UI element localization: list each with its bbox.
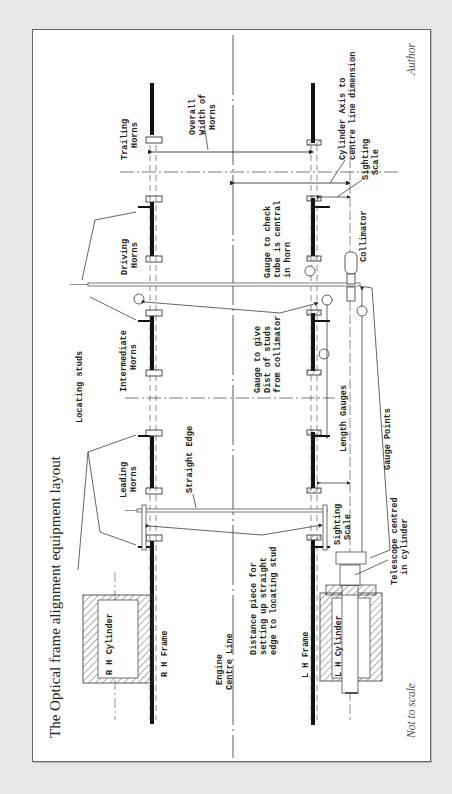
dial-gauges — [134, 266, 367, 359]
straight-edge — [137, 509, 327, 512]
collimator-beam — [88, 283, 360, 286]
label-leading-horns: LeadingHorns — [119, 462, 139, 498]
alignment-diagram: The Optical frame alignment equipment la… — [0, 0, 452, 794]
label-gauge-points: Gauge Points — [383, 408, 393, 470]
figure-title: The Optical frame alignment equipment la… — [47, 455, 63, 738]
label-engine-centre: EngineCentre Line — [215, 633, 235, 690]
label-rh-cylinder: R H Cylinder — [105, 613, 115, 675]
label-distance-piece: Distance piece forsetting up straightedg… — [249, 547, 279, 655]
label-trailing-horns: TrailingHorns — [120, 119, 140, 160]
label-intermediate-horns: IntermediateHorns — [119, 330, 139, 392]
label-collimator: Collimator — [359, 210, 369, 262]
label-gauge-check: Gauge to checktube is centralin horn — [263, 201, 293, 278]
rh-cylinder — [83, 595, 153, 683]
label-gauge-dist: Gauge to giveDist of studsfrom collimato… — [253, 316, 283, 393]
label-lh-cylinder: L H Cylinder — [334, 615, 344, 677]
collimator — [345, 252, 357, 301]
label-overall-width: OverallWidth ofHorns — [188, 94, 218, 135]
figure-credit: Author — [405, 43, 417, 76]
label-locating-studs: Locating studs — [75, 351, 85, 423]
scale-note: Not to scale — [405, 683, 417, 739]
label-length-gauges: Length Gauges — [339, 385, 349, 452]
lh-cylinder — [320, 552, 388, 693]
label-telescope: Telescope centredin cylinder — [390, 497, 410, 585]
label-cylinder-axis: Cylinder Axis tocentre line dimension — [338, 52, 358, 160]
label-rh-frame: R H Frame — [160, 631, 170, 677]
label-straight-edge: Straight Edge — [185, 426, 195, 493]
label-lh-frame: L H Frame — [301, 632, 311, 678]
label-sighting-scale-top: SightingScale — [361, 139, 381, 180]
label-driving-horns: DrivingHorns — [120, 239, 140, 275]
